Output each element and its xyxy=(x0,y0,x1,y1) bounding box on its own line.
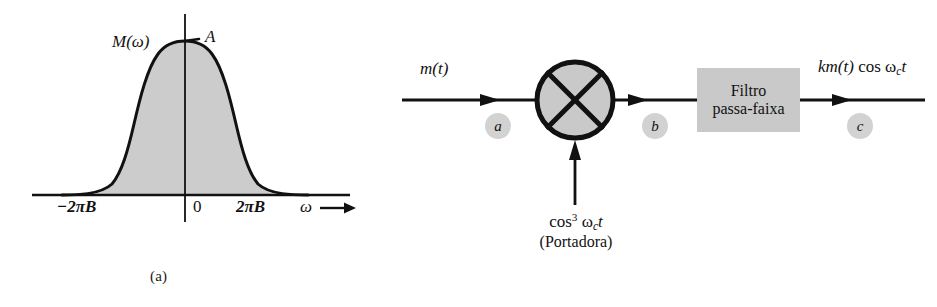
carrier-label-t: t xyxy=(598,212,603,231)
output-label-km: km(t) xyxy=(818,57,854,76)
filter-label-line-2: passa-faixa xyxy=(713,100,785,118)
spectrum-function-label: M(ω) xyxy=(112,33,150,50)
node-bubble-c: c xyxy=(847,113,873,139)
arrowhead-output xyxy=(832,94,852,106)
input-signal-label: m(t) xyxy=(420,60,448,77)
carrier-note-label: (Portadora) xyxy=(520,234,632,250)
panel-a-spectrum: M(ω) A −2πB 0 2πB ω (a) xyxy=(0,0,400,307)
node-label-c: c xyxy=(857,118,864,135)
carrier-signal-label: cos3 ωct xyxy=(528,212,624,233)
omega-axis-arrow-icon xyxy=(320,203,356,214)
arrowhead-mixer-out xyxy=(628,94,648,106)
filter-label-line-1: Filtro xyxy=(731,82,767,100)
carrier-label-cos: cos xyxy=(549,212,572,231)
arrowhead-carrier xyxy=(569,140,581,160)
xtick-label-neg-bandwidth: −2πB xyxy=(57,198,96,215)
node-label-b: b xyxy=(651,118,659,135)
block-diagram-svg xyxy=(380,0,937,307)
output-label-omega: ω xyxy=(885,57,896,76)
bandpass-filter-label: Filtro passa-faixa xyxy=(697,68,800,132)
output-signal-label: km(t) cos ωct xyxy=(818,58,906,78)
output-label-t: t xyxy=(901,57,906,76)
figure-root: M(ω) A −2πB 0 2πB ω (a) xyxy=(0,0,937,307)
output-label-cos: cos xyxy=(858,57,881,76)
carrier-label-omega: ω xyxy=(582,212,593,231)
node-bubble-b: b xyxy=(642,113,668,139)
peak-tick xyxy=(185,39,199,41)
xtick-label-pos-bandwidth: 2πB xyxy=(236,198,265,215)
x-axis-label-omega: ω xyxy=(300,198,312,215)
panel-b-block-diagram: Filtro passa-faixa m(t) km(t) cos ωct co… xyxy=(380,0,937,307)
spectrum-svg xyxy=(0,0,400,307)
xtick-label-origin: 0 xyxy=(193,198,202,215)
arrowhead-input xyxy=(480,94,500,106)
node-bubble-a: a xyxy=(485,113,511,139)
node-label-a: a xyxy=(494,118,502,135)
spectrum-peak-label: A xyxy=(205,28,215,45)
caption-panel-a: (a) xyxy=(150,268,167,285)
